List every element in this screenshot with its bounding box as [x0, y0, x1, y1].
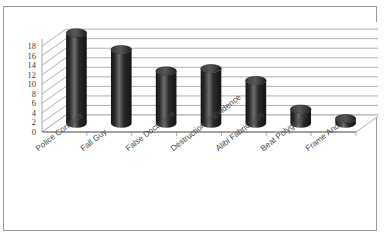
y-axis-tick-4: 4	[14, 109, 36, 118]
bar-body-1	[111, 50, 132, 128]
y-axis-tick-8: 8	[14, 90, 36, 99]
gridline-depth-8	[42, 77, 66, 94]
y-axis-tick-18: 18	[14, 42, 36, 51]
gridline-depth-4	[42, 96, 66, 113]
bar-cap-3	[201, 64, 222, 72]
gridline-depth-14	[42, 48, 66, 65]
y-axis-tick-16: 16	[14, 52, 36, 61]
gridline-depth-18	[42, 29, 66, 46]
bar-cap-2	[156, 67, 177, 75]
bar-1	[111, 45, 132, 127]
gridline-depth-6	[42, 86, 66, 103]
bar-cap-4	[246, 76, 267, 84]
y-axis-tick-0: 0	[14, 128, 36, 137]
y-axis-tick-10: 10	[14, 80, 36, 89]
chart-frame: 024681012141618 Police ContactsFall GuyF…	[3, 6, 377, 231]
plot-area	[4, 7, 378, 232]
bar-cap-1	[111, 45, 132, 53]
scan-top-remnant	[4, 0, 204, 3]
y-axis-tick-6: 6	[14, 99, 36, 108]
y-axis-tick-14: 14	[14, 61, 36, 70]
bar-cap-0	[66, 29, 87, 37]
bar-chart-3d	[4, 7, 378, 232]
gridline-depth-10	[42, 67, 66, 84]
gridline-depth-12	[42, 58, 66, 75]
gridline-depth-16	[42, 39, 66, 56]
y-axis-tick-2: 2	[14, 118, 36, 127]
y-axis-tick-12: 12	[14, 71, 36, 80]
